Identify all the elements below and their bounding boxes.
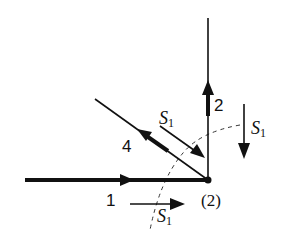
member-2-label: 2 [214,96,223,115]
member-1-label: 1 [106,191,115,210]
force-s1-horizontal-label: S1 [157,206,172,228]
node-label: (2) [201,191,221,210]
force-subscript: 1 [168,116,174,130]
truss-joint-diagram: 1 2 4 (2) S1 S1 S1 [0,0,286,245]
force-s1-diagonal-label: S1 [159,108,174,130]
force-symbol: S [157,206,166,226]
force-s1-horizontal-arrowhead [170,198,185,210]
force-subscript: 1 [260,126,266,140]
force-s1-vertical-arrowhead [238,143,250,159]
member-2-arrowhead [202,80,214,95]
node-2 [205,177,212,184]
force-symbol: S [251,118,260,138]
force-s1-vertical-label: S1 [251,118,266,140]
member-4-label: 4 [122,137,131,156]
member-4-force-segment [148,137,168,151]
force-s1-diagonal-arrowhead [190,144,205,158]
force-symbol: S [159,108,168,128]
member-1-arrowhead [120,174,134,186]
force-subscript: 1 [166,214,172,228]
